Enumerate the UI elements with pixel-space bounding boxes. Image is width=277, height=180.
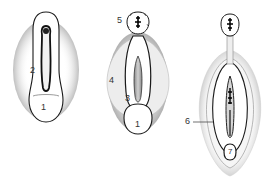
central-groove — [134, 56, 142, 102]
opening-dot — [43, 28, 49, 34]
stalk — [227, 36, 233, 64]
inner-groove — [41, 26, 50, 91]
label-5-fig2: 5 — [117, 16, 122, 25]
label-2-fig1: 2 — [30, 66, 35, 75]
figure-3 — [193, 14, 261, 176]
label-7-fig3: 7 — [228, 148, 232, 156]
label-4-fig2: 4 — [109, 76, 114, 85]
diagram-canvas — [0, 0, 277, 180]
label-1-fig2: 1 — [135, 120, 140, 129]
label-6-fig3: 6 — [185, 117, 190, 126]
label-3-fig2: 3 — [125, 94, 130, 103]
label-1-fig1: 1 — [41, 103, 46, 112]
figure-2 — [107, 12, 169, 134]
